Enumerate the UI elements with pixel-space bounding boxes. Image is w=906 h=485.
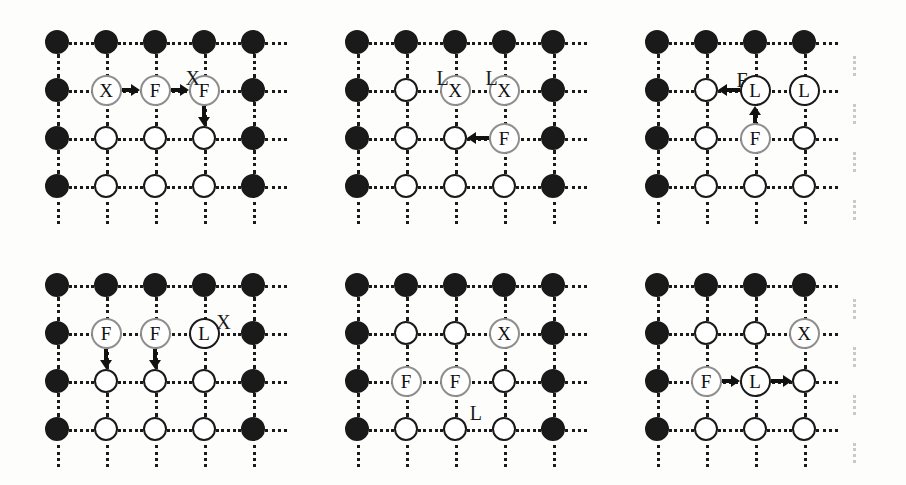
lattice-node-filled <box>541 321 565 345</box>
lattice-node-filled <box>541 78 565 102</box>
continuation-dots-vertical <box>706 202 709 224</box>
faded-column-dots <box>853 56 856 76</box>
lattice-edge-vertical <box>106 102 109 126</box>
lattice-node-open <box>143 126 167 150</box>
lattice-edge-horizontal <box>69 138 94 141</box>
lattice-edge-vertical <box>755 393 758 417</box>
lattice-node-open <box>792 417 816 441</box>
lattice-node-open <box>694 78 718 102</box>
lattice-edge-vertical <box>657 297 660 321</box>
lattice-edge-vertical <box>406 54 409 78</box>
lattice-edge-horizontal <box>669 186 694 189</box>
lattice-edge-vertical <box>755 297 758 321</box>
lattice-edge-vertical <box>804 102 807 126</box>
lattice-edge-vertical <box>657 54 660 78</box>
lattice-edge-vertical <box>57 102 60 126</box>
lattice-node-open <box>394 417 418 441</box>
continuation-dots-horizontal <box>816 285 838 288</box>
lattice-node-l: L <box>789 75 820 106</box>
panel-4: FFLX <box>0 243 302 485</box>
lattice-node-f: F <box>440 366 471 397</box>
lattice-grid: XFFL <box>300 243 602 485</box>
lattice-edge-vertical <box>253 150 256 174</box>
lattice-edge-horizontal <box>669 429 694 432</box>
lattice-node-f: F <box>140 318 171 349</box>
lattice-node-filled <box>45 78 69 102</box>
lattice-edge-vertical <box>406 102 409 126</box>
panel-5: XFFL <box>300 243 602 485</box>
lattice-node-filled <box>541 174 565 198</box>
lattice-node-open <box>443 126 467 150</box>
lattice-node-filled <box>345 417 369 441</box>
lattice-node-filled <box>241 273 265 297</box>
lattice-edge-vertical <box>253 393 256 417</box>
lattice-node-filled <box>394 273 418 297</box>
continuation-dots-horizontal <box>565 186 587 189</box>
continuation-dots-horizontal <box>565 42 587 45</box>
continuation-dots-horizontal <box>265 90 287 93</box>
lattice-node-filled <box>645 126 669 150</box>
node-label: F <box>701 372 712 391</box>
lattice-node-open <box>192 417 216 441</box>
lattice-grid: XFL <box>600 243 902 485</box>
lattice-node-x: X <box>489 318 520 349</box>
lattice-edge-horizontal <box>669 333 694 336</box>
lattice-edge-horizontal <box>167 138 192 141</box>
lattice-node-open <box>192 126 216 150</box>
node-label: L <box>798 81 810 100</box>
lattice-node-open <box>394 78 418 102</box>
lattice-edge-vertical <box>357 54 360 78</box>
lattice-edge-horizontal <box>118 42 143 45</box>
lattice-edge-vertical <box>57 345 60 369</box>
lattice-node-filled <box>345 30 369 54</box>
lattice-edge-horizontal <box>718 333 743 336</box>
lattice-edge-vertical <box>553 102 556 126</box>
lattice-edge-horizontal <box>767 42 792 45</box>
lattice-node-open <box>94 369 118 393</box>
lattice-edge-horizontal <box>369 333 394 336</box>
lattice-edge-vertical <box>204 393 207 417</box>
lattice-node-open <box>743 417 767 441</box>
lattice-edge-horizontal <box>216 429 241 432</box>
continuation-dots-horizontal <box>816 42 838 45</box>
continuation-dots-vertical <box>657 445 660 467</box>
node-label: F <box>750 129 761 148</box>
node-label: F <box>101 324 112 343</box>
lattice-node-filled <box>45 126 69 150</box>
lattice-node-open <box>743 321 767 345</box>
lattice-node-filled <box>394 30 418 54</box>
arrow-shaft <box>771 379 785 382</box>
continuation-dots-horizontal <box>265 42 287 45</box>
lattice-node-open <box>694 126 718 150</box>
lattice-edge-horizontal <box>418 429 443 432</box>
continuation-dots-vertical <box>406 202 409 224</box>
arrow-head <box>783 375 792 387</box>
lattice-node-filled <box>541 30 565 54</box>
lattice-node-filled <box>45 321 69 345</box>
continuation-dots-horizontal <box>565 381 587 384</box>
faded-column-dots <box>853 299 856 319</box>
lattice-edge-vertical <box>204 150 207 174</box>
lattice-edge-horizontal <box>118 429 143 432</box>
lattice-node-filled <box>192 30 216 54</box>
lattice-edge-horizontal <box>767 138 792 141</box>
continuation-dots-vertical <box>755 445 758 467</box>
continuation-dots-vertical <box>106 202 109 224</box>
lattice-edge-horizontal <box>69 285 94 288</box>
lattice-node-filled <box>345 321 369 345</box>
lattice-edge-horizontal <box>118 138 143 141</box>
lattice-edge-horizontal <box>369 138 394 141</box>
lattice-edge-horizontal <box>167 381 192 384</box>
transition-label: L <box>436 68 448 88</box>
lattice-edge-horizontal <box>467 186 492 189</box>
arrow-head <box>100 360 112 369</box>
arrow-shaft <box>475 136 489 139</box>
lattice-node-f: F <box>140 75 171 106</box>
lattice-edge-vertical <box>657 345 660 369</box>
lattice-edge-vertical <box>106 150 109 174</box>
lattice-node-filled <box>443 273 467 297</box>
lattice-node-filled <box>492 273 516 297</box>
faded-column-dots <box>853 200 856 220</box>
lattice-edge-horizontal <box>516 42 541 45</box>
lattice-edge-horizontal <box>118 186 143 189</box>
